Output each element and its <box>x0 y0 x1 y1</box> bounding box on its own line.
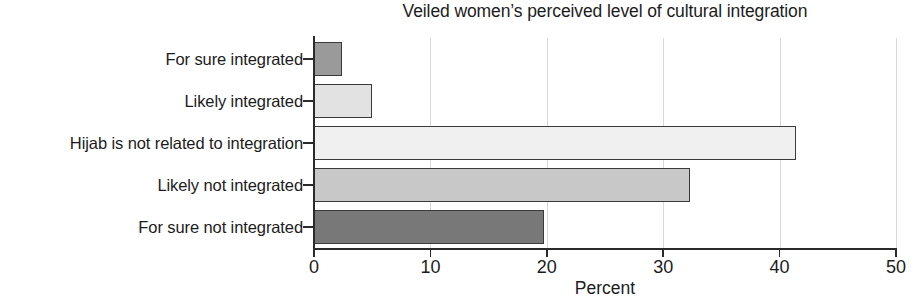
bar-series <box>314 38 896 248</box>
plot-area <box>314 38 896 248</box>
x-tick-label-20: 20 <box>537 257 557 278</box>
y-axis-label-text: Likely integrated <box>185 92 303 111</box>
bar-row <box>314 38 896 80</box>
y-tick-mark <box>303 142 313 144</box>
y-axis-tick-4: For sure not integrated <box>0 206 303 248</box>
bar-3 <box>314 168 690 202</box>
y-tick-mark <box>303 184 313 186</box>
y-axis-tick-3: Likely not integrated <box>0 164 303 206</box>
y-axis-tick-1: Likely integrated <box>0 80 303 122</box>
bar-4 <box>314 210 544 244</box>
bar-1 <box>314 84 372 118</box>
y-axis-label-text: For sure not integrated <box>138 218 303 237</box>
y-axis-label-text: Likely not integrated <box>157 176 303 195</box>
bar-row <box>314 206 896 248</box>
x-tick-mark-50 <box>895 249 897 257</box>
x-tick-mark-10 <box>430 249 432 257</box>
y-axis-label-text: For sure integrated <box>165 50 303 69</box>
y-tick-mark <box>303 226 313 228</box>
x-axis-line <box>313 248 897 250</box>
gridline-50 <box>896 38 897 248</box>
chart-figure: Veiled women’s perceived level of cultur… <box>0 0 913 299</box>
y-axis-labels: For sure integrated Likely integrated Hi… <box>0 38 303 248</box>
x-tick-mark-40 <box>779 249 781 257</box>
x-axis-title: Percent <box>314 278 896 299</box>
y-axis-tick-0: For sure integrated <box>0 38 303 80</box>
x-tick-mark-0 <box>313 249 315 257</box>
x-tick-label-0: 0 <box>309 257 319 278</box>
y-tick-mark <box>303 100 313 102</box>
y-tick-mark <box>303 58 313 60</box>
chart-title: Veiled women’s perceived level of cultur… <box>314 1 896 22</box>
bar-2 <box>314 126 796 160</box>
bar-row <box>314 122 896 164</box>
bar-row <box>314 164 896 206</box>
y-axis-label-text: Hijab is not related to integration <box>70 134 303 153</box>
x-tick-label-10: 10 <box>420 257 440 278</box>
x-tick-label-50: 50 <box>886 257 906 278</box>
x-tick-mark-30 <box>662 249 664 257</box>
x-tick-label-30: 30 <box>653 257 673 278</box>
bar-row <box>314 80 896 122</box>
y-axis-line <box>313 36 315 250</box>
y-axis-tick-2: Hijab is not related to integration <box>0 122 303 164</box>
x-tick-label-40: 40 <box>770 257 790 278</box>
x-tick-mark-20 <box>546 249 548 257</box>
bar-0 <box>314 42 342 76</box>
